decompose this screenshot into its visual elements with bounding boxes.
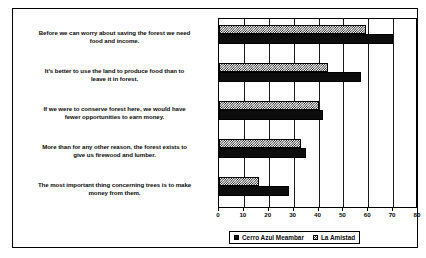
chart-legend: Cerro Azul MeambarLa Amistad <box>229 231 360 244</box>
bar-group <box>219 95 416 133</box>
bar-la-amistad <box>219 63 328 73</box>
category-label-line: The most important thing concerning tree… <box>13 181 216 189</box>
legend-item: La Amistad <box>313 234 355 241</box>
axis-tick-label: 30 <box>289 211 296 218</box>
category-label-line: leave it in forest. <box>13 75 216 83</box>
axis-tick-label: 60 <box>364 211 371 218</box>
category-label-line: food and income. <box>13 37 216 45</box>
bar-group <box>219 171 416 209</box>
category-label-line: If we were to conserve forest here, we w… <box>13 105 216 113</box>
legend-label: Cerro Azul Meambar <box>242 234 304 241</box>
category-label-line: Before we can worry about saving the for… <box>13 29 216 37</box>
axis-tick-label: 80 <box>414 211 421 218</box>
category-label-line: give us firewood and lumber. <box>13 151 216 159</box>
plot-area <box>218 18 417 208</box>
category-label-column: Before we can worry about saving the for… <box>13 9 216 205</box>
category-label-line: It's better to use the land to produce f… <box>13 67 216 75</box>
axis-tick-label: 50 <box>339 211 346 218</box>
axis-tick-label: 20 <box>264 211 271 218</box>
category-label: More than for any other reason, the fore… <box>13 143 216 160</box>
legend-item: Cerro Azul Meambar <box>234 234 304 241</box>
figure-root: Before we can worry about saving the for… <box>0 0 426 258</box>
axis-tick-label: 70 <box>389 211 396 218</box>
bar-la-amistad <box>219 177 259 187</box>
bar-la-amistad <box>219 25 366 35</box>
axis-tick-label: 40 <box>314 211 321 218</box>
axis-tick-label: 10 <box>239 211 246 218</box>
bar-group <box>219 133 416 171</box>
legend-label: La Amistad <box>321 234 355 241</box>
category-label-line: More than for any other reason, the fore… <box>13 143 216 151</box>
bar-la-amistad <box>219 139 301 149</box>
category-label: If we were to conserve forest here, we w… <box>13 105 216 122</box>
bar-group <box>219 57 416 95</box>
solid-square-swatch <box>234 235 239 240</box>
hatched-square-swatch <box>313 235 318 240</box>
bar-la-amistad <box>219 101 319 111</box>
category-label: Before we can worry about saving the for… <box>13 29 216 46</box>
bar-cerro-azul-meambar <box>219 34 393 44</box>
bar-cerro-azul-meambar <box>219 72 361 82</box>
x-axis: 01020304050607080 <box>218 208 417 222</box>
bar-cerro-azul-meambar <box>219 186 289 196</box>
bar-cerro-azul-meambar <box>219 110 323 120</box>
category-label: It's better to use the land to produce f… <box>13 67 216 84</box>
category-label-line: money from them. <box>13 189 216 197</box>
bar-group <box>219 19 416 57</box>
category-label-line: fewer opportunities to earn money. <box>13 113 216 121</box>
bar-cerro-azul-meambar <box>219 148 306 158</box>
axis-tick-label: 0 <box>216 211 219 218</box>
category-label: The most important thing concerning tree… <box>13 181 216 198</box>
